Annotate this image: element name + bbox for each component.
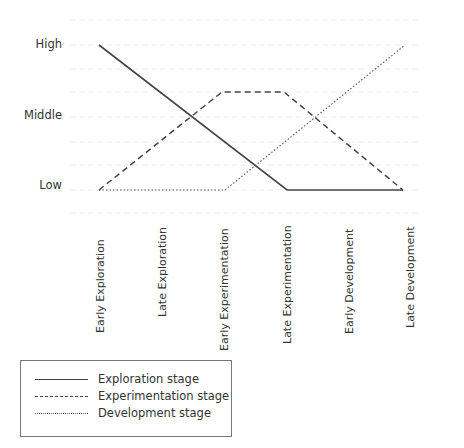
legend: Exploration stage Experimentation stage … (20, 360, 232, 437)
dashed-line-icon (35, 396, 88, 397)
solid-line-icon (35, 379, 88, 380)
gridlines (70, 20, 420, 213)
y-tick-low: Low (0, 178, 62, 192)
x-tick-late-experimentation: Late Experimentation (281, 225, 294, 344)
x-tick-early-development: Early Development (343, 229, 356, 334)
y-tick-high: High (0, 37, 62, 51)
x-tick-early-experimentation: Early Experimentation (218, 228, 231, 351)
legend-item-development: Development stage (35, 405, 211, 421)
x-tick-late-development: Late Development (404, 227, 417, 329)
dotted-line-icon (35, 413, 88, 414)
y-tick-middle: Middle (0, 108, 62, 122)
x-tick-early-exploration: Early Exploration (94, 239, 107, 333)
legend-item-exploration: Exploration stage (35, 371, 199, 387)
series-experimentation (99, 92, 403, 190)
legend-item-experimentation: Experimentation stage (35, 388, 229, 404)
x-tick-late-exploration: Late Exploration (156, 227, 169, 317)
